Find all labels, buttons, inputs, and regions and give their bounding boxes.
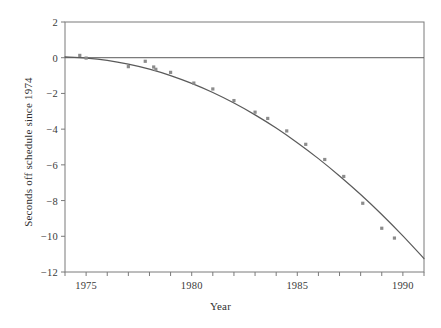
data-point [266,117,269,120]
data-point [169,71,172,74]
data-point [361,202,364,205]
data-point [192,81,195,84]
data-point [253,111,256,114]
data-point [342,175,345,178]
data-point [78,54,81,57]
chart-figure: 20−2−4−6−8−10−12 1975198019851990 Second… [0,0,441,328]
y-axis-title: Seconds off schedule since 1974 [22,52,34,252]
x-tick-label: 1980 [181,280,203,291]
x-axis-title: Year [0,300,441,312]
data-point [127,65,130,68]
fitted-curve [65,57,424,259]
plot-border [65,22,424,272]
x-tick-label: 1990 [392,280,414,291]
chart-canvas [0,0,441,328]
data-point [323,158,326,161]
data-point [154,68,157,71]
y-tick-label: 2 [18,17,58,28]
y-tick-label: −12 [18,267,58,278]
data-points [78,54,396,240]
data-point [232,99,235,102]
plot-frame [65,22,424,272]
data-point [393,236,396,239]
x-tick-label: 1975 [75,280,97,291]
curve-path [65,57,424,259]
data-point [211,87,214,90]
data-point [144,60,147,63]
data-point [380,227,383,230]
x-tick-label: 1985 [286,280,308,291]
axis-ticks [61,22,424,276]
data-point [85,56,88,59]
data-point [304,143,307,146]
data-point [285,129,288,132]
